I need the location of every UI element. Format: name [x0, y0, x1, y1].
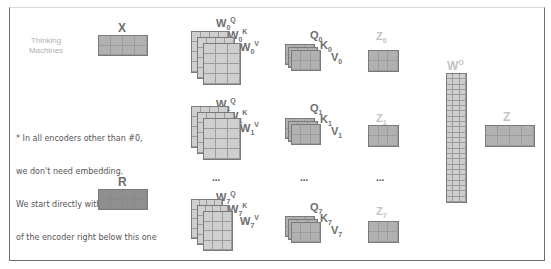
v0-label: V0 [331, 52, 342, 67]
z7-matrix [368, 221, 399, 243]
brand-logo: Thinking Machines [26, 36, 66, 56]
note-line: * In all encoders other than #0, [16, 133, 157, 144]
encoder-note: * In all encoders other than #0, we don'… [16, 111, 157, 254]
v7-label: V7 [331, 225, 342, 240]
w1v-matrix [203, 118, 241, 160]
note-line: of the encoder right below this one [16, 232, 157, 243]
v1-matrix [291, 124, 321, 145]
z-output-label: Z [503, 112, 510, 123]
brand-line-2: Machines [26, 46, 66, 56]
wo-label: WO [447, 57, 464, 72]
qkv1-stack [285, 118, 325, 148]
x-label: X [118, 23, 126, 34]
v1-label: V1 [331, 126, 342, 141]
note-line: we don't need embedding. [16, 166, 157, 177]
w1-stack [191, 106, 251, 162]
brand-line-1: Thinking [26, 36, 66, 46]
z1-matrix [368, 125, 399, 147]
ellipsis-qkv: ... [300, 172, 308, 183]
r-matrix [98, 189, 148, 210]
w7-stack [191, 199, 251, 255]
ellipsis-weights: ... [212, 172, 220, 183]
w0v-matrix [203, 43, 241, 85]
v0-matrix [291, 50, 321, 71]
z0-matrix [368, 50, 399, 72]
qkv0-stack [285, 44, 325, 74]
w7v-matrix [203, 211, 233, 251]
ellipsis-z: ... [376, 172, 384, 183]
z0-label: Z0 [376, 31, 387, 46]
v7-matrix [291, 222, 321, 243]
qkv7-stack [285, 216, 325, 246]
z7-label: Z7 [376, 206, 387, 221]
z-output-matrix [485, 125, 535, 147]
x-matrix [98, 35, 148, 56]
wo-matrix [446, 73, 467, 203]
r-label: R [118, 177, 127, 188]
w0-stack [191, 31, 251, 87]
